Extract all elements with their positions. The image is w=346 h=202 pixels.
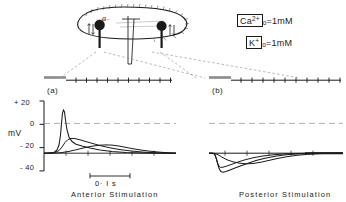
calcium-charge: 2+	[252, 15, 260, 22]
y-tick-label-minus20: - 20	[20, 141, 34, 150]
timeline-b	[207, 74, 343, 84]
scalebar-label: 0· I s	[95, 179, 116, 188]
trace-fast-spike-a	[44, 110, 176, 153]
timeline-a	[42, 74, 174, 84]
figure-root: a	[0, 0, 346, 202]
potassium-bracket: K+	[246, 36, 262, 49]
potassium-condition: K+o=1mM	[246, 36, 292, 49]
potassium-charge: +	[255, 37, 259, 44]
potassium-value: =1mM	[266, 38, 292, 48]
panel-a-traces	[44, 99, 176, 173]
scalebar-a	[88, 172, 132, 179]
calcium-bracket: Ca2+	[237, 14, 263, 27]
trace-deep-hyperpolarization-b	[209, 153, 343, 172]
leader-lines	[0, 0, 346, 82]
y-tick-label-zero: 0	[30, 119, 34, 128]
y-tick-label-minus40: - 40	[20, 163, 34, 172]
caption-a: Anterior Stimulation	[71, 190, 158, 199]
y-axis-unit: mV	[8, 128, 22, 138]
calcium-value: =1mM	[267, 16, 293, 26]
stim-bar-b	[209, 76, 231, 79]
panel-tag-b: (b)	[212, 86, 223, 95]
panel-b-traces	[209, 99, 343, 173]
panel-tag-a: (a)	[47, 86, 58, 95]
stim-bar-a	[44, 76, 66, 79]
y-tick-label-plus20: + 20	[14, 98, 30, 107]
calcium-condition: Ca2+o=1mM	[237, 14, 293, 27]
caption-b: Posterior Stimulation	[239, 190, 331, 199]
